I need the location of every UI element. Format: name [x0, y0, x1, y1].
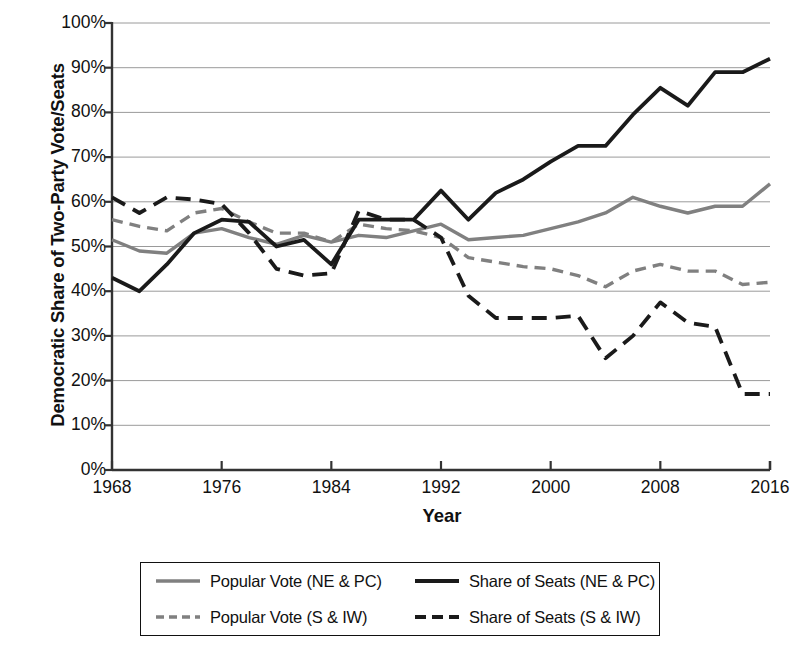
legend-swatch-line — [414, 574, 460, 588]
legend-item[interactable]: Share of Seats (NE & PC) — [400, 572, 659, 591]
legend-swatch-line — [414, 610, 460, 624]
legend-item-label: Popular Vote (S & IW) — [210, 608, 367, 627]
series-line-2 — [112, 209, 770, 287]
plot-area — [0, 0, 800, 653]
legend-item-label: Share of Seats (NE & PC) — [469, 572, 655, 591]
legend-item-label: Share of Seats (S & IW) — [469, 608, 640, 627]
legend-item-label: Popular Vote (NE & PC) — [210, 572, 382, 591]
legend-item[interactable]: Share of Seats (S & IW) — [400, 608, 659, 627]
legend-swatch-line — [155, 574, 201, 588]
series-line-3 — [112, 59, 770, 291]
series-line-1 — [112, 184, 770, 253]
legend-swatch-line — [155, 610, 201, 624]
chart-figure: Democratic Share of Two-Party Vote/Seats… — [0, 0, 800, 653]
legend-item[interactable]: Popular Vote (NE & PC) — [141, 572, 400, 591]
legend-item[interactable]: Popular Vote (S & IW) — [141, 608, 400, 627]
legend: Popular Vote (NE & PC)Share of Seats (NE… — [140, 562, 660, 636]
